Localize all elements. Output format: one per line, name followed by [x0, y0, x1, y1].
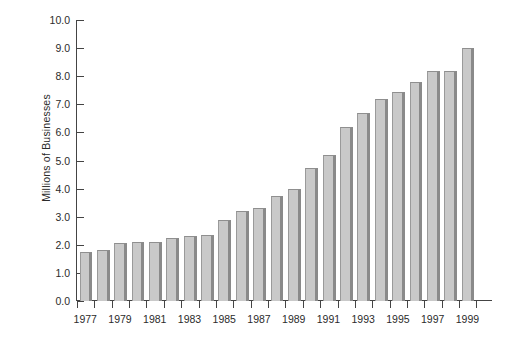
x-axis-tick: [372, 301, 373, 308]
y-axis-tick: [77, 20, 84, 21]
x-axis-tick-label: 1977: [74, 313, 97, 325]
bar: [184, 236, 197, 301]
x-axis-tick-label: 1979: [108, 313, 131, 325]
y-axis-tick: [77, 161, 84, 162]
x-axis-tick: [164, 301, 165, 308]
bar: [323, 155, 336, 301]
x-axis-tick: [233, 301, 234, 308]
y-axis-tick-label: 2.0: [55, 239, 70, 251]
x-axis-tick: [216, 301, 217, 308]
y-axis-tick-label: 3.0: [55, 211, 70, 223]
x-axis-tick: [303, 301, 304, 308]
bar: [462, 48, 475, 301]
bar: [97, 250, 110, 301]
bar: [253, 208, 266, 301]
x-axis-tick: [77, 301, 78, 308]
y-axis-tick-label: 6.0: [55, 126, 70, 138]
x-axis-tick: [320, 301, 321, 308]
bar: [427, 71, 440, 301]
x-axis-tick: [459, 301, 460, 308]
x-axis-tick: [390, 301, 391, 308]
bar: [444, 71, 457, 301]
bar: [288, 189, 301, 301]
y-axis-tick-label: 0.0: [55, 295, 70, 307]
y-axis-tick: [77, 132, 84, 133]
x-axis-tick: [285, 301, 286, 308]
x-axis-tick-label: 1999: [456, 313, 479, 325]
bar: [166, 238, 179, 301]
bar: [410, 82, 423, 301]
x-axis-tick-label: 1985: [213, 313, 236, 325]
bar: [114, 243, 127, 301]
y-axis-tick-label: 10.0: [50, 14, 70, 26]
bar: [340, 127, 353, 301]
x-axis-tick: [112, 301, 113, 308]
x-axis-tick: [424, 301, 425, 308]
x-axis-tick-label: 1989: [282, 313, 305, 325]
bar: [305, 168, 318, 301]
bar: [218, 220, 231, 301]
bar: [80, 252, 93, 301]
x-axis-tick: [338, 301, 339, 308]
x-axis-tick: [146, 301, 147, 308]
bar: [149, 242, 162, 301]
x-axis-tick-label: 1993: [352, 313, 375, 325]
x-axis-tick: [355, 301, 356, 308]
bar: [375, 99, 388, 301]
bar-chart: Millions of Businesses 0.01.02.03.04.05.…: [0, 0, 513, 343]
y-axis-tick: [77, 217, 84, 218]
y-axis-title: Millions of Businesses: [40, 58, 52, 238]
x-axis-tick: [442, 301, 443, 308]
bar: [392, 92, 405, 301]
y-axis-tick: [77, 104, 84, 105]
x-axis-tick-label: 1987: [247, 313, 270, 325]
x-axis-tick: [268, 301, 269, 308]
bar: [271, 196, 284, 301]
bar: [201, 235, 214, 301]
y-axis-tick-label: 9.0: [55, 42, 70, 54]
x-axis-tick-label: 1997: [421, 313, 444, 325]
x-axis-tick: [199, 301, 200, 308]
y-axis-tick-label: 5.0: [55, 155, 70, 167]
y-axis-tick-label: 8.0: [55, 70, 70, 82]
y-axis-tick-label: 7.0: [55, 98, 70, 110]
y-axis-tick: [77, 301, 84, 302]
x-axis-tick-label: 1995: [386, 313, 409, 325]
bar: [132, 242, 145, 301]
x-axis-tick: [251, 301, 252, 308]
x-axis-tick: [476, 301, 477, 308]
y-axis-tick: [77, 189, 84, 190]
x-axis-tick: [94, 301, 95, 308]
x-axis-tick-label: 1983: [178, 313, 201, 325]
y-axis-tick-label: 1.0: [55, 267, 70, 279]
y-axis-tick-label: 4.0: [55, 183, 70, 195]
x-axis-tick: [407, 301, 408, 308]
x-axis-tick-label: 1981: [143, 313, 166, 325]
bar: [357, 113, 370, 301]
y-axis-tick: [77, 76, 84, 77]
y-axis-tick: [77, 245, 84, 246]
bar: [236, 211, 249, 301]
x-axis-tick: [129, 301, 130, 308]
plot-area: 0.01.02.03.04.05.06.07.08.09.010.0 19771…: [76, 20, 492, 301]
x-axis-tick: [181, 301, 182, 308]
x-axis-tick-label: 1991: [317, 313, 340, 325]
y-axis-tick: [77, 48, 84, 49]
